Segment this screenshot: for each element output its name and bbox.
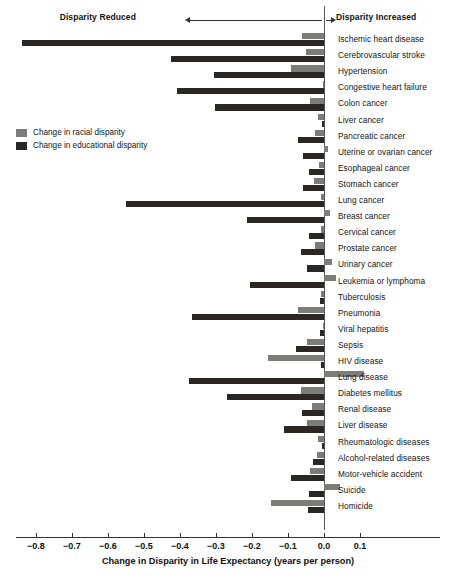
bar-pair [0, 290, 330, 306]
bar-pair [0, 322, 330, 338]
bar-black [322, 121, 324, 127]
bar-black [298, 137, 324, 143]
bar-pair [0, 177, 330, 193]
bar-row-label: Tuberculosis [338, 292, 385, 302]
bar-black [308, 507, 324, 513]
bar-pair [0, 402, 330, 418]
bar-row-label: Ischemic heart disease [338, 34, 424, 44]
bar-black [309, 169, 324, 175]
bar-black [284, 426, 324, 432]
bar-black [303, 185, 324, 191]
bar-row-label: Liver cancer [338, 115, 384, 125]
bar-row-label: Sepsis [338, 340, 363, 350]
x-axis-tick-label: −0.2 [243, 541, 261, 551]
bar-gray [301, 387, 324, 393]
bar-row-label: Hypertension [338, 66, 388, 76]
bar-row: Esophageal cancer [0, 161, 456, 177]
legend-swatch-racial [16, 129, 27, 137]
bar-gray [310, 468, 324, 474]
x-axis-tick [180, 533, 181, 537]
legend-item-racial: Change in racial disparity [16, 128, 147, 137]
x-axis-tick [360, 533, 361, 537]
bar-row-label: Urinary cancer [338, 259, 393, 269]
x-axis-tick-label: −0.4 [171, 541, 189, 551]
bar-gray [323, 81, 324, 87]
bar-row: Diabetes mellitus [0, 386, 456, 402]
bar-row: Suicide [0, 483, 456, 499]
bar-row: Urinary cancer [0, 257, 456, 273]
bar-black [227, 394, 324, 400]
bar-row-label: Esophageal cancer [338, 163, 410, 173]
bar-gray [324, 275, 336, 281]
x-axis-tick-label: −0.8 [27, 541, 45, 551]
bar-row: Cervical cancer [0, 225, 456, 241]
chart-root: Disparity Reduced Disparity Increased Is… [0, 0, 456, 582]
bar-black [126, 201, 324, 207]
bar-pair [0, 386, 330, 402]
disparity-reduced-label: Disparity Reduced [60, 12, 136, 22]
bar-gray [291, 65, 324, 71]
bar-row: Leukemia or lymphoma [0, 274, 456, 290]
bar-black [320, 330, 324, 336]
bar-gray [318, 114, 324, 120]
bar-row: Colon cancer [0, 96, 456, 112]
bar-row-label: Diabetes mellitus [338, 388, 402, 398]
bar-black [301, 249, 324, 255]
header-left-rule [190, 20, 322, 21]
bar-row: Liver cancer [0, 113, 456, 129]
bar-black [313, 459, 324, 465]
bar-row-label: Homicide [338, 501, 373, 511]
x-axis-tick [216, 533, 217, 537]
bar-black [250, 282, 324, 288]
bar-pair [0, 435, 330, 451]
bar-row: Tuberculosis [0, 290, 456, 306]
bar-row-label: Colon cancer [338, 98, 388, 108]
bar-gray [324, 259, 332, 265]
bar-row-label: Rheumatologic diseases [338, 437, 430, 447]
bar-gray [321, 291, 324, 297]
legend-item-educational: Change in educational disparity [16, 141, 147, 150]
bar-pair [0, 370, 330, 386]
bar-row-label: Uterine or ovarian cancer [338, 147, 432, 157]
bar-pair [0, 274, 330, 290]
bar-row-label: Cerebrovascular stroke [338, 50, 425, 60]
bar-black [22, 40, 324, 46]
bar-row-label: Motor-vehicle accident [338, 469, 422, 479]
bar-black [322, 443, 324, 449]
plot-area: Ischemic heart diseaseCerebrovascular st… [0, 28, 456, 530]
bar-black [189, 378, 324, 384]
bar-gray [307, 339, 324, 345]
bar-gray [268, 355, 324, 361]
bar-pair [0, 418, 330, 434]
bar-row: Ischemic heart disease [0, 32, 456, 48]
x-axis-title: Change in Disparity in Life Expectancy (… [0, 556, 456, 566]
x-axis-tick [36, 533, 37, 537]
bar-pair [0, 64, 330, 80]
bar-pair [0, 467, 330, 483]
bar-black [247, 217, 324, 223]
x-axis-tick-label: 0.0 [318, 541, 331, 551]
bar-row: Alcohol-related diseases [0, 451, 456, 467]
bar-gray [306, 49, 324, 55]
bar-gray [271, 500, 324, 506]
bar-pair [0, 48, 330, 64]
bar-row-label: Congestive heart failure [338, 82, 427, 92]
legend-label-racial: Change in racial disparity [33, 128, 125, 137]
x-axis-tick-label: −0.5 [135, 541, 153, 551]
x-axis-tick [288, 533, 289, 537]
bar-row: HIV disease [0, 354, 456, 370]
bar-black [291, 475, 324, 481]
bar-gray [315, 130, 324, 136]
bar-black [215, 104, 324, 110]
bar-black [307, 265, 324, 271]
bar-pair [0, 338, 330, 354]
bar-gray [319, 162, 324, 168]
bar-row: Sepsis [0, 338, 456, 354]
bar-row: Rheumatologic diseases [0, 435, 456, 451]
legend-swatch-educational [16, 142, 27, 150]
legend-label-educational: Change in educational disparity [33, 141, 147, 150]
x-axis-tick-label: −0.1 [279, 541, 297, 551]
bar-row: Breast cancer [0, 209, 456, 225]
x-axis-tick [108, 533, 109, 537]
bar-black [214, 72, 324, 78]
